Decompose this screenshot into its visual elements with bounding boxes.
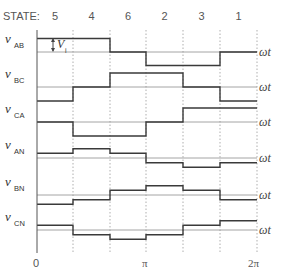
omega-t-label: ωt	[259, 223, 271, 237]
omega-t-label: ωt	[259, 115, 271, 129]
state-label: STATE:	[3, 10, 40, 22]
omega-t-label: ωt	[259, 151, 271, 165]
label-sub-ca: CA	[14, 111, 24, 120]
six-step-inverter-waveform-diagram: STATE: 546231 vABvBCvCAvANvBNvCN ωtωtωtω…	[0, 0, 284, 276]
label-sub-ab: AB	[14, 41, 24, 50]
label-sub-bc: BC	[14, 76, 25, 85]
label-vca: v	[5, 101, 11, 116]
label-vab: v	[5, 31, 11, 46]
x-label-zero: 0	[33, 257, 39, 269]
state-number: 5	[52, 10, 58, 22]
state-number: 6	[125, 10, 131, 22]
omega-t-label: ωt	[259, 45, 271, 59]
waveform-baselines	[37, 52, 257, 230]
state-number: 2	[162, 10, 168, 22]
label-sub-an: AN	[14, 147, 24, 156]
label-van: v	[5, 137, 11, 152]
label-vbn: v	[5, 174, 11, 189]
state-dividers	[73, 30, 257, 253]
state-numbers: 546231	[52, 10, 242, 22]
omega-t-label: ωt	[259, 80, 271, 94]
waveform-labels: vABvBCvCAvANvBNvCN	[5, 31, 25, 228]
waveforms	[37, 39, 257, 240]
label-vbc: v	[5, 66, 11, 81]
vi-annotation: V i	[51, 37, 67, 54]
x-label-pi: π	[142, 257, 148, 269]
omega-t-labels: ωtωtωtωtωtωt	[259, 45, 271, 237]
label-sub-cn: CN	[14, 219, 25, 228]
x-label-2pi: 2π	[248, 257, 260, 269]
label-sub-bn: BN	[14, 184, 24, 193]
state-number: 1	[236, 10, 242, 22]
state-number: 3	[199, 10, 205, 22]
label-vcn: v	[5, 209, 11, 224]
state-number: 4	[89, 10, 95, 22]
omega-t-label: ωt	[259, 188, 271, 202]
vi-subscript: i	[65, 47, 67, 54]
